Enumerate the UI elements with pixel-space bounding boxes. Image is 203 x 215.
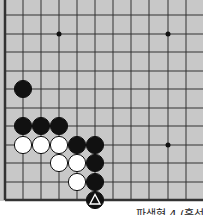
- black-stone: [86, 173, 103, 190]
- diagram-caption: 파생형 4 (흑선): [136, 205, 203, 215]
- black-stone: [14, 117, 31, 134]
- white-stone: [50, 154, 67, 171]
- black-stone: [32, 117, 49, 134]
- black-stone: [86, 136, 103, 153]
- star-point: [57, 32, 62, 37]
- white-stone: [50, 136, 67, 153]
- black-stone: [68, 136, 85, 153]
- go-board: [0, 0, 203, 215]
- white-stone: [14, 136, 31, 153]
- white-stone: [68, 173, 85, 190]
- board-background: [0, 0, 203, 201]
- star-point: [166, 143, 171, 148]
- star-point: [166, 32, 171, 37]
- white-stone: [32, 136, 49, 153]
- black-stone: [14, 80, 31, 97]
- black-stone: [50, 117, 67, 134]
- black-stone: [86, 154, 103, 171]
- white-stone: [68, 154, 85, 171]
